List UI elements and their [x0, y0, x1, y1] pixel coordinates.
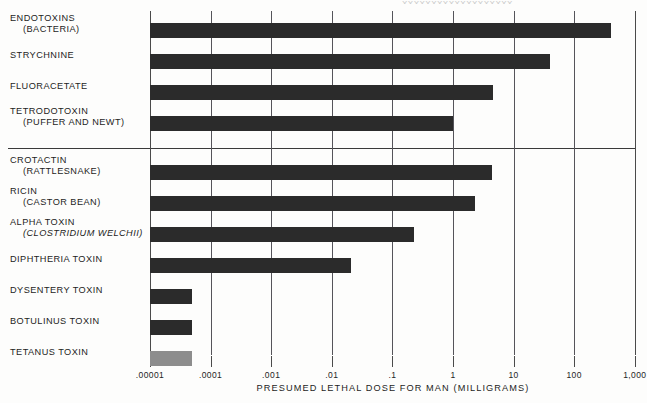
bar-tetrodotoxin	[150, 116, 453, 131]
x-axis-tick	[574, 356, 575, 367]
category-label-main: FLUORACETATE	[10, 81, 88, 91]
x-axis-tick	[635, 356, 636, 367]
category-label-strychnine: STRYCHNINE	[10, 50, 146, 61]
category-label-main: TETRODOTOXIN	[10, 106, 88, 116]
category-label-tetrodotoxin: TETRODOTOXIN(PUFFER AND NEWT)	[10, 106, 146, 129]
category-label-sub: (CLOSTRIDIUM WELCHII)	[10, 228, 146, 239]
category-label-dysentery: DYSENTERY TOXIN	[10, 285, 146, 296]
x-axis-tick-label: 10	[508, 370, 518, 380]
category-label-sub: (BACTERIA)	[10, 24, 146, 35]
x-axis-tick-label: 1	[450, 370, 455, 380]
x-axis-tick-label: .1	[388, 370, 396, 380]
x-axis-tick	[332, 356, 333, 367]
x-axis-tick-label: 1,000	[623, 370, 646, 380]
category-label-main: STRYCHNINE	[10, 50, 74, 60]
x-axis-tick	[211, 356, 212, 367]
category-label-main: DIPHTHERIA TOXIN	[10, 254, 103, 264]
category-label-alpha-toxin: ALPHA TOXIN(CLOSTRIDIUM WELCHII)	[10, 217, 146, 240]
plot-right-border	[635, 11, 636, 355]
category-label-main: ALPHA TOXIN	[10, 217, 75, 227]
toxicity-bar-chart: XXXXXXXXXXXXXXXXXXX .00001.0001.001.01.1…	[0, 0, 647, 403]
category-label-main: BOTULINUS TOXIN	[10, 316, 100, 326]
x-axis-title: PRESUMED LETHAL DOSE FOR MAN (MILLIGRAMS…	[150, 383, 636, 393]
category-label-botulinus: BOTULINUS TOXIN	[10, 316, 146, 327]
category-label-main: CROTACTIN	[10, 155, 67, 165]
bar-diphtheria	[150, 258, 351, 273]
category-label-sub: (RATTLESNAKE)	[10, 166, 146, 177]
bar-alpha-toxin	[150, 227, 414, 242]
gridline-100	[574, 11, 575, 355]
category-label-ricin: RICIN(CASTOR BEAN)	[10, 186, 146, 209]
category-label-main: TETANUS TOXIN	[10, 347, 88, 357]
category-label-main: ENDOTOXINS	[10, 13, 75, 23]
category-label-crotactin: CROTACTIN(RATTLESNAKE)	[10, 155, 146, 178]
bar-crotactin	[150, 165, 492, 180]
section-divider-line	[8, 148, 636, 149]
bar-strychnine	[150, 54, 550, 69]
bar-tetanus	[150, 351, 192, 366]
x-axis-tick-label: .0001	[199, 370, 222, 380]
category-label-fluoracetate: FLUORACETATE	[10, 81, 146, 92]
x-axis-tick-label: .01	[325, 370, 338, 380]
cropped-caption-sliver: XXXXXXXXXXXXXXXXXXX	[402, 0, 520, 4]
x-axis-tick	[453, 356, 454, 367]
x-axis-tick	[392, 356, 393, 367]
x-axis-tick-label: .00001	[136, 370, 164, 380]
x-axis-tick	[514, 356, 515, 367]
category-label-main: RICIN	[10, 186, 37, 196]
bar-dysentery	[150, 289, 192, 304]
category-label-sub: (CASTOR BEAN)	[10, 197, 146, 208]
x-axis-tick-label: 100	[566, 370, 581, 380]
category-label-tetanus: TETANUS TOXIN	[10, 347, 146, 358]
bar-botulinus	[150, 320, 192, 335]
x-axis-tick	[271, 356, 272, 367]
category-label-endotoxins: ENDOTOXINS(BACTERIA)	[10, 13, 146, 36]
bar-fluoracetate	[150, 85, 493, 100]
category-label-main: DYSENTERY TOXIN	[10, 285, 103, 295]
category-label-diphtheria: DIPHTHERIA TOXIN	[10, 254, 146, 265]
x-axis-tick-label: .001	[262, 370, 280, 380]
bar-ricin	[150, 196, 475, 211]
category-label-sub: (PUFFER AND NEWT)	[10, 117, 146, 128]
bar-endotoxins	[150, 23, 611, 38]
